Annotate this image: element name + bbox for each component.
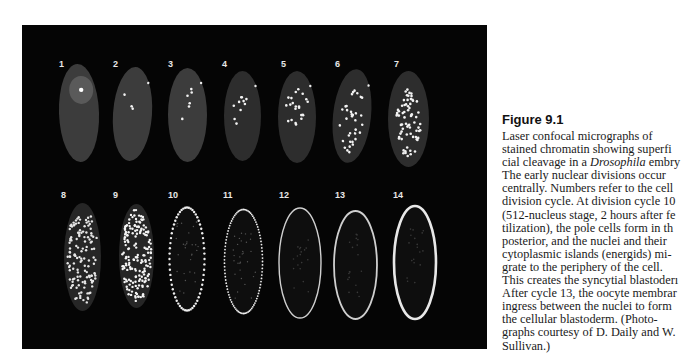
embryo-cycle-label: 13 [335, 191, 345, 200]
embryo-cycle-label: 10 [168, 191, 178, 200]
embryo-micrograph [333, 210, 378, 320]
embryo-micrograph [393, 205, 437, 320]
embryo-micrograph [387, 70, 430, 168]
embryo-cycle-label: 7 [394, 60, 399, 69]
figure-caption: Figure 9.1 Laser confocal micrographs of… [502, 112, 685, 353]
micrograph-panel: 1234567891011121314 [22, 25, 487, 349]
caption-line: Sullivan.) [502, 340, 685, 353]
embryo-micrograph [56, 62, 101, 163]
embryo-cycle-label: 5 [281, 60, 286, 69]
embryo-cycle-label: 14 [393, 191, 403, 200]
embryo-micrograph [109, 65, 157, 164]
embryo-micrograph [278, 207, 322, 319]
embryo-cycle-label: 12 [279, 191, 289, 200]
embryo-micrograph [167, 205, 207, 313]
embryo-micrograph [118, 203, 155, 309]
embryo-micrograph [223, 70, 262, 162]
caption-title: Figure 9.1 [502, 112, 685, 127]
embryo-micrograph [327, 66, 377, 166]
embryo-cycle-label: 9 [113, 191, 118, 200]
embryo-cycle-label: 8 [61, 191, 66, 200]
embryo-micrograph [222, 207, 265, 316]
embryo-micrograph [277, 70, 317, 164]
embryo-micrograph [63, 202, 102, 312]
caption-body: Laser confocal micrographs ofstained chr… [502, 130, 685, 353]
embryo-cycle-label: 11 [223, 191, 233, 200]
embryo-micrograph [167, 67, 208, 163]
embryo-cycle-label: 4 [222, 60, 227, 69]
